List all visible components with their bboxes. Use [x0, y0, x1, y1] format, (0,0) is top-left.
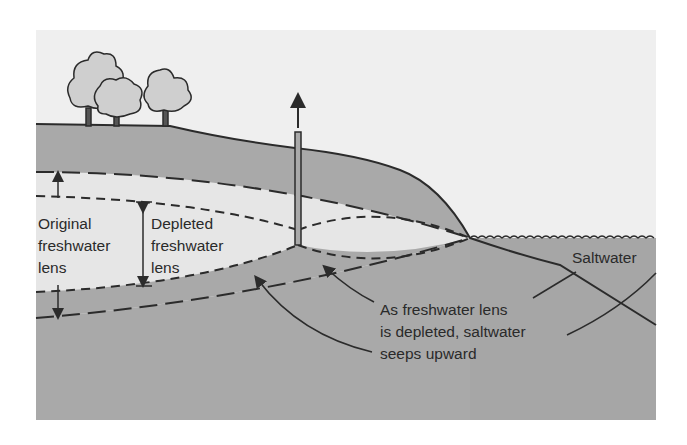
well-pipe [295, 132, 301, 245]
label-depleted-line2: freshwater [151, 237, 223, 254]
caption-line3: seeps upward [380, 345, 477, 362]
label-original-line1: Original [38, 215, 91, 232]
label-saltwater: Saltwater [572, 249, 637, 266]
caption-line1: As freshwater lens [380, 301, 508, 318]
caption-line2: is depleted, saltwater [380, 323, 526, 340]
freshwater-lens-diagram: Original freshwater lens Depleted freshw… [0, 0, 687, 445]
label-original-line3: lens [38, 259, 67, 276]
label-depleted-line3: lens [151, 259, 180, 276]
label-original-line2: freshwater [38, 237, 110, 254]
label-depleted-line1: Depleted [151, 215, 213, 232]
